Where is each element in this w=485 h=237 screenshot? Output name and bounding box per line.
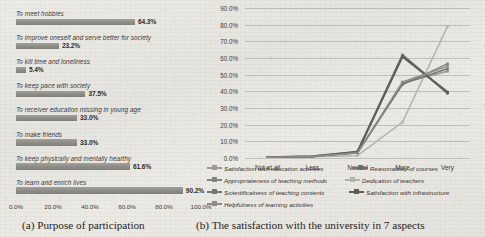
bar-value-label: 64.3% xyxy=(138,18,156,25)
bar-value-label: 61.6% xyxy=(133,163,151,170)
figure-captions: (a) Purpose of participation (b) The sat… xyxy=(0,213,485,237)
legend-marker-icon xyxy=(207,176,222,184)
data-point-marker xyxy=(446,91,449,94)
line-series xyxy=(266,55,449,158)
legend-label: Appropriateness of teaching methods xyxy=(224,177,327,184)
bar-value-label: 5.4% xyxy=(29,66,44,73)
bar-category-label: To make friends xyxy=(16,131,201,139)
caption-panel-a: (a) Purpose of participation xyxy=(22,219,145,231)
bar-category-label: To keep pace with society xyxy=(16,82,201,90)
line-series xyxy=(266,25,449,158)
bar-row: 5.4% xyxy=(16,67,201,74)
bar-category-block: To learn and enrich lives90.2% xyxy=(16,179,201,195)
legend-marker-icon xyxy=(353,164,368,172)
bar-value-label: 37.5% xyxy=(88,90,106,97)
bar-value-label: 90.2% xyxy=(186,187,204,194)
data-point-marker xyxy=(446,63,449,66)
bar-category-label: To meet hobbies xyxy=(16,10,201,18)
line-chart-y-tick-label: 90.0% xyxy=(220,5,238,12)
legend-item: Helpfulness of learning activities xyxy=(207,200,313,208)
panel-a-bar-chart: To meet hobbies64.3%To improve oneself a… xyxy=(0,0,205,215)
bar-category-block: To meet hobbies64.3% xyxy=(16,10,201,26)
bar xyxy=(16,163,130,170)
bar xyxy=(16,43,59,50)
line-chart-y-tick-label: 20.0% xyxy=(220,121,238,128)
legend-item: Satisfaction with education activities xyxy=(207,164,323,172)
caption-b-label: (b) xyxy=(196,219,209,231)
bar-value-label: 33.0% xyxy=(80,114,98,121)
bar-category-block: To receiver education missing in young a… xyxy=(16,106,201,122)
legend-item: Reasonability of courses xyxy=(353,164,438,172)
line-path xyxy=(268,57,448,158)
legend-item: Satisfaction with infrastructure xyxy=(349,188,449,196)
data-point-marker xyxy=(356,152,359,155)
bar-value-label: 23.2% xyxy=(62,42,80,49)
legend-item: Scientificalness of teaching contents xyxy=(207,188,325,196)
bar xyxy=(16,91,85,98)
line-path xyxy=(268,66,448,157)
bar-category-block: To keep physically and mentally hearthy6… xyxy=(16,155,201,171)
caption-a-text: Purpose of participation xyxy=(37,219,145,231)
bar-category-block: To improve oneself and serve better for … xyxy=(16,34,201,50)
bar-row: 37.5% xyxy=(16,91,201,98)
line-chart-y-tick-label: 50.0% xyxy=(220,71,238,78)
line-chart-y-tick-label: 30.0% xyxy=(220,105,238,112)
legend-label: Reasonability of courses xyxy=(370,165,438,172)
bar-x-tick-label: 80.0% xyxy=(155,203,173,210)
legend-marker-icon xyxy=(349,188,364,196)
bar-x-tick-label: 40.0% xyxy=(81,203,99,210)
bar-chart-x-axis: 0.0%20.0%40.0%60.0%80.0%100.0% xyxy=(12,203,202,213)
bar-row: 33.0% xyxy=(16,115,201,122)
caption-a-label: (a) xyxy=(22,219,34,231)
bar-row: 64.3% xyxy=(16,19,201,26)
bar-category-block: To kill time and loneliness5.4% xyxy=(16,58,201,74)
bar-value-label: 33.0% xyxy=(80,139,98,146)
line-series xyxy=(266,54,449,158)
legend-label: Scientificalness of teaching contents xyxy=(224,189,325,196)
line-series xyxy=(266,65,449,158)
line-chart-plot-area: 0.0%10.0%20.0%30.0%40.0%50.0%60.0%70.0%8… xyxy=(245,8,470,158)
data-point-marker xyxy=(446,25,449,28)
bar xyxy=(16,115,77,122)
data-point-marker xyxy=(446,68,449,71)
legend-item: Appropriateness of teaching methods xyxy=(207,176,327,184)
data-point-marker xyxy=(401,121,404,124)
bar-category-label: To improve oneself and serve better for … xyxy=(16,34,201,42)
bar-row: 33.0% xyxy=(16,139,201,146)
bar xyxy=(16,139,77,146)
legend-marker-icon xyxy=(345,176,360,184)
line-chart-y-tick-label: 40.0% xyxy=(220,88,238,95)
legend-label: Helpfulness of learning activities xyxy=(224,201,313,208)
data-point-marker xyxy=(401,81,404,84)
data-point-marker xyxy=(401,55,404,58)
bar-category-label: To keep physically and mentally hearthy xyxy=(16,155,201,163)
bar-category-block: To keep pace with society37.5% xyxy=(16,82,201,98)
line-series-svg xyxy=(245,8,470,158)
bar-category-block: To make friends33.0% xyxy=(16,131,201,147)
bar-row: 23.2% xyxy=(16,43,201,50)
line-chart-y-tick-label: 10.0% xyxy=(220,138,238,145)
bar-x-tick-label: 20.0% xyxy=(44,203,62,210)
legend-label: Dedication of teachers xyxy=(362,177,424,184)
data-point-marker xyxy=(356,154,359,157)
bar-x-tick-label: 0.0% xyxy=(9,203,23,210)
line-chart-y-tick-label: 0.0% xyxy=(224,155,238,162)
line-chart-y-tick-label: 80.0% xyxy=(220,21,238,28)
line-chart-y-tick-label: 70.0% xyxy=(220,38,238,45)
bar-row: 61.6% xyxy=(16,163,201,170)
line-chart-y-tick-label: 60.0% xyxy=(220,55,238,62)
line-chart-legend: Satisfaction with education activitiesRe… xyxy=(205,164,485,212)
bar-x-tick-label: 60.0% xyxy=(118,203,136,210)
legend-marker-icon xyxy=(207,164,222,172)
bar-row: 90.2% xyxy=(16,187,201,194)
data-point-marker xyxy=(311,155,314,158)
data-point-marker xyxy=(266,156,269,158)
bar-category-label: To receiver education missing in young a… xyxy=(16,106,201,114)
legend-marker-icon xyxy=(207,200,222,208)
line-path xyxy=(268,26,448,157)
data-point-marker xyxy=(446,70,449,73)
caption-panel-b: (b) The satisfaction with the university… xyxy=(196,219,424,231)
caption-b-text: The satisfaction with the university in … xyxy=(212,219,425,231)
bar-category-label: To kill time and loneliness xyxy=(16,58,201,66)
legend-item: Dedication of teachers xyxy=(345,176,424,184)
